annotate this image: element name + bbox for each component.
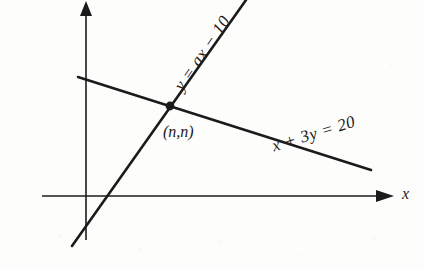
intersection-point-dot (166, 102, 175, 111)
x-axis-arrowhead-icon (376, 190, 394, 202)
x-axis-label: x (402, 186, 409, 202)
math-figure: y = ax − 10 x + 3y = 20 (n,n) x (0, 0, 425, 269)
intersection-point-label: (n,n) (163, 124, 194, 140)
y-axis-arrowhead-icon (80, 1, 92, 16)
